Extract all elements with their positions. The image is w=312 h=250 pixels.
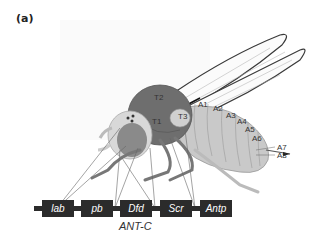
gene-lab: lab — [42, 200, 74, 217]
complex-label: ANT-C — [118, 220, 152, 232]
label-T1: T1 — [152, 117, 162, 126]
gene-dfd: Dfd — [120, 200, 152, 217]
label-A5: A5 — [245, 125, 255, 134]
label-A2: A2 — [213, 104, 223, 113]
label-T3: T3 — [178, 112, 188, 121]
gene-label-lab: lab — [51, 203, 65, 214]
gene-pb: pb — [81, 200, 113, 217]
label-T2: T2 — [154, 93, 164, 102]
label-A3: A3 — [226, 111, 236, 120]
figure-canvas: (a) — [0, 0, 312, 250]
fly-diagram: T2 T1 T3 A1 A2 A3 A4 A5 A6 A7 A8 lab pb — [0, 0, 312, 250]
gene-label-scr: Scr — [169, 203, 185, 214]
gene-antp: Antp — [200, 200, 232, 217]
gene-label-dfd: Dfd — [128, 203, 144, 214]
ant-c-gene-complex: lab pb Dfd Scr Antp ANT-C — [34, 200, 232, 232]
label-A6: A6 — [252, 134, 262, 143]
label-A1: A1 — [198, 100, 208, 109]
gene-label-pb: pb — [90, 203, 103, 214]
gene-label-antp: Antp — [205, 203, 227, 214]
gene-scr: Scr — [160, 200, 192, 217]
label-A8: A8 — [277, 151, 287, 160]
